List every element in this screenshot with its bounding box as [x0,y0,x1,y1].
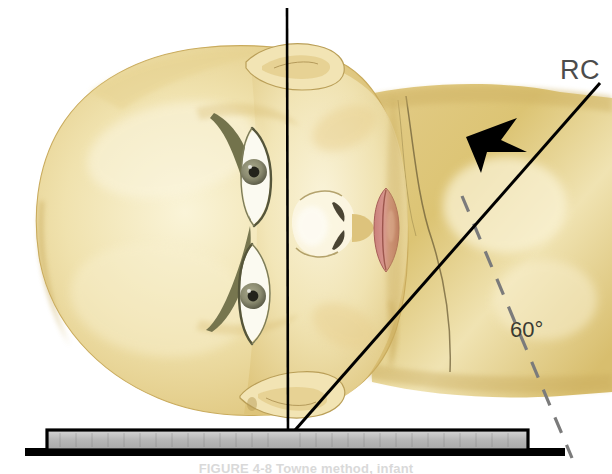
nose-highlight [296,206,328,246]
angle-label: 60° [510,317,543,342]
cassette-body [47,430,528,450]
eye-catchlight-upper [248,165,252,169]
image-receptor-platform [25,430,565,456]
ear-lower-lobe-shadow [247,397,257,411]
illustration-canvas: RC 60° [0,0,612,474]
central-ray-label: RC [560,55,600,85]
eye-catchlight-lower [247,289,251,293]
figure-caption: FIGURE 4-8 Towne method, infant [0,461,612,474]
shoulder-highlight-lower [493,260,597,340]
midsagittal-reference-line [287,8,288,437]
figure-illustration: RC 60° [0,0,612,474]
